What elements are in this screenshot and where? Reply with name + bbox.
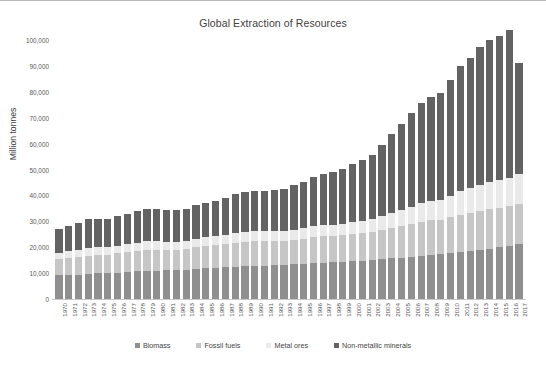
bar-segment-metal-ores: [496, 180, 503, 208]
bar-column[interactable]: [476, 47, 483, 299]
bar-column[interactable]: [515, 63, 522, 299]
bar-segment-non-metallic-minerals: [310, 177, 317, 226]
bar-segment-fossil-fuels: [114, 253, 121, 272]
bar-column[interactable]: [418, 103, 425, 299]
bar-column[interactable]: [486, 40, 493, 299]
legend-item[interactable]: Fossil fuels: [196, 341, 240, 350]
bar-segment-biomass: [310, 263, 317, 299]
bar-segment-biomass: [134, 271, 141, 299]
bar-column[interactable]: [104, 219, 111, 299]
legend-item[interactable]: Metal ores: [266, 341, 308, 350]
bar-column[interactable]: [369, 155, 376, 300]
bar-column[interactable]: [408, 113, 415, 299]
bar-segment-biomass: [369, 260, 376, 299]
x-axis-tick-label: 1982: [179, 303, 186, 317]
x-axis-tick-label: 1999: [345, 303, 352, 317]
bar-segment-non-metallic-minerals: [359, 160, 366, 221]
legend-item[interactable]: Non-metallic minerals: [334, 341, 411, 350]
bar-column[interactable]: [280, 189, 287, 299]
bar-column[interactable]: [251, 191, 258, 299]
bar-segment-biomass: [349, 261, 356, 299]
bar-segment-metal-ores: [378, 216, 385, 230]
bar-segment-biomass: [329, 262, 336, 299]
bar-column[interactable]: [447, 80, 454, 299]
bar-segment-metal-ores: [163, 242, 170, 250]
bar-column[interactable]: [241, 192, 248, 299]
x-axis-tick-label: 2015: [502, 303, 509, 317]
bar-column[interactable]: [55, 229, 62, 299]
bar-segment-biomass: [447, 253, 454, 299]
bar-segment-fossil-fuels: [486, 209, 493, 248]
bar-column[interactable]: [202, 203, 209, 299]
bar-segment-fossil-fuels: [378, 230, 385, 260]
bar-column[interactable]: [271, 190, 278, 299]
bar-column[interactable]: [359, 160, 366, 299]
bar-segment-metal-ores: [320, 225, 327, 236]
bar-segment-fossil-fuels: [300, 239, 307, 264]
bar-segment-biomass: [114, 273, 121, 299]
x-axis-tick-label: 2009: [443, 303, 450, 317]
x-axis-tick-label: 2001: [365, 303, 372, 317]
bar-segment-biomass: [173, 270, 180, 299]
bar-column[interactable]: [85, 219, 92, 299]
bar-column[interactable]: [310, 177, 317, 299]
bar-column[interactable]: [143, 209, 150, 299]
bar-segment-metal-ores: [437, 200, 444, 219]
bar-segment-biomass: [94, 273, 101, 299]
legend-swatch-icon: [334, 343, 339, 348]
bar-segment-fossil-fuels: [55, 259, 62, 275]
bar-column[interactable]: [437, 93, 444, 299]
bar-column[interactable]: [290, 185, 297, 299]
bar-segment-non-metallic-minerals: [447, 80, 454, 196]
x-axis-tick-label: 1972: [81, 303, 88, 317]
bar-segment-biomass: [183, 270, 190, 299]
bar-segment-fossil-fuels: [241, 242, 248, 266]
bar-segment-metal-ores: [388, 213, 395, 228]
bar-column[interactable]: [398, 124, 405, 299]
bar-column[interactable]: [173, 210, 180, 299]
bar-column[interactable]: [457, 66, 464, 299]
bar-column[interactable]: [339, 169, 346, 299]
legend-item[interactable]: Biomass: [135, 341, 171, 350]
bar-column[interactable]: [427, 97, 434, 299]
bar-column[interactable]: [124, 214, 131, 299]
x-axis-tick-label: 2014: [492, 303, 499, 317]
bar-column[interactable]: [506, 30, 513, 299]
bar-segment-metal-ores: [183, 241, 190, 249]
bar-segment-non-metallic-minerals: [271, 190, 278, 231]
bar-column[interactable]: [300, 182, 307, 299]
bar-column[interactable]: [261, 191, 268, 299]
bar-column[interactable]: [232, 194, 239, 299]
bar-segment-metal-ores: [143, 241, 150, 250]
bar-segment-fossil-fuels: [124, 252, 131, 272]
x-axis-tick-label: 1978: [139, 303, 146, 317]
bar-column[interactable]: [320, 174, 327, 299]
bar-column[interactable]: [75, 223, 82, 299]
plot-area: 010,00020,00030,00040,00050,00060,00070,…: [54, 40, 524, 299]
bar-column[interactable]: [114, 216, 121, 299]
bar-column[interactable]: [153, 209, 160, 299]
bar-column[interactable]: [329, 172, 336, 299]
bar-segment-metal-ores: [476, 185, 483, 211]
bar-column[interactable]: [65, 226, 72, 299]
bar-column[interactable]: [378, 145, 385, 299]
bar-column[interactable]: [94, 219, 101, 299]
bar-column[interactable]: [134, 211, 141, 299]
bar-segment-non-metallic-minerals: [457, 66, 464, 191]
bar-segment-metal-ores: [153, 241, 160, 250]
x-axis-tick-label: 2000: [355, 303, 362, 317]
bar-column[interactable]: [222, 198, 229, 299]
y-axis-tick-label: 80,000: [9, 88, 49, 95]
x-axis-tick-label: 1991: [267, 303, 274, 317]
bar-segment-metal-ores: [408, 207, 415, 224]
bar-column[interactable]: [349, 164, 356, 299]
bar-column[interactable]: [496, 36, 503, 299]
bar-column[interactable]: [467, 58, 474, 299]
bar-segment-non-metallic-minerals: [55, 229, 62, 253]
bar-column[interactable]: [183, 209, 190, 299]
bar-column[interactable]: [212, 201, 219, 299]
bar-column[interactable]: [388, 134, 395, 299]
bar-segment-non-metallic-minerals: [251, 191, 258, 232]
bar-column[interactable]: [192, 205, 199, 299]
bar-column[interactable]: [163, 210, 170, 299]
